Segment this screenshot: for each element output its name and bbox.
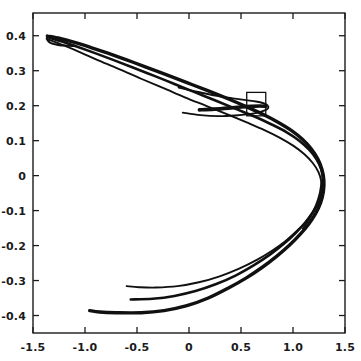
x-axis-tick-labels: -1.5-1.0-0.500.51.01.5	[21, 341, 355, 354]
attractor-branch	[48, 39, 322, 287]
y-tick-label: -0.3	[1, 275, 26, 288]
x-tick-label: 1.0	[283, 341, 303, 354]
y-tick-label: -0.1	[1, 205, 26, 218]
x-tick-label: -0.5	[125, 341, 150, 354]
y-tick-label: 0.2	[6, 100, 26, 113]
y-tick-label: -0.4	[1, 310, 26, 323]
y-tick-label: 0.1	[6, 135, 26, 148]
x-tick-label: 1.5	[335, 341, 355, 354]
y-tick-label: 0	[18, 170, 26, 183]
y-axis-ticks	[33, 36, 345, 316]
x-tick-label: 0	[185, 341, 193, 354]
x-tick-label: -1.5	[21, 341, 46, 354]
x-tick-label: -1.0	[73, 341, 98, 354]
attractor-figure: -1.5-1.0-0.500.51.01.5 0.40.30.20.10-0.1…	[0, 0, 361, 361]
attractor-branch	[48, 37, 323, 299]
y-tick-label: 0.4	[6, 30, 26, 43]
y-tick-label: 0.3	[6, 65, 26, 78]
y-tick-label: -0.2	[1, 240, 26, 253]
attractor-plot-svg: -1.5-1.0-0.500.51.01.5 0.40.30.20.10-0.1…	[0, 0, 361, 361]
x-tick-label: 0.5	[231, 341, 251, 354]
attractor-branch	[47, 36, 324, 313]
y-axis-tick-labels: 0.40.30.20.10-0.1-0.2-0.3-0.4	[1, 30, 26, 323]
attractor-curves	[47, 36, 324, 313]
